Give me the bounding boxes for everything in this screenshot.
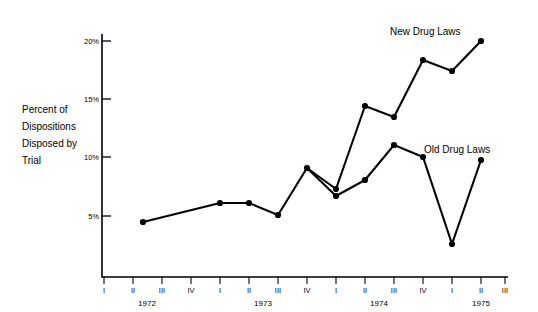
data-point — [217, 200, 223, 206]
year-label-1975: 1975 — [472, 299, 490, 308]
x-axis-tick-labels: I II III IV I II III IV I II III IV I II… — [103, 286, 508, 295]
y-axis-title-line-2: Dispositions — [22, 121, 76, 132]
x-tick-label-10: III — [391, 286, 397, 295]
line-chart: 20% 15% 10% 5% Percent of Dispositions D… — [0, 0, 538, 312]
series-line-old-drug-laws — [143, 145, 481, 244]
x-tick-label-1: II — [131, 286, 135, 295]
data-point — [478, 157, 484, 163]
data-point — [362, 103, 368, 109]
x-tick-label-11: IV — [419, 286, 426, 295]
data-point — [304, 165, 310, 171]
x-tick-label-8: I — [335, 286, 337, 295]
x-tick-label-0: I — [103, 286, 105, 295]
series-connector-branch — [307, 168, 336, 189]
y-axis-title: Percent of Dispositions Disposed by Tria… — [22, 104, 77, 166]
data-point — [275, 212, 281, 218]
y-axis-title-line-3: Disposed by — [22, 138, 77, 149]
data-point — [478, 38, 484, 44]
x-tick-label-3: IV — [187, 286, 194, 295]
data-point — [391, 142, 397, 148]
data-point — [140, 219, 146, 225]
chart-axes — [102, 34, 508, 277]
x-axis-ticks — [104, 277, 505, 284]
x-tick-label-14: III — [502, 286, 508, 295]
y-tick-label-10: 10% — [84, 153, 99, 162]
year-label-1972: 1972 — [138, 299, 156, 308]
y-axis-title-line-1: Percent of — [22, 104, 68, 115]
series-label-old-drug-laws: Old Drug Laws — [424, 144, 490, 155]
x-tick-label-12: I — [451, 286, 453, 295]
year-label-1974: 1974 — [370, 299, 388, 308]
series-line-new-drug-laws — [336, 41, 481, 189]
data-point — [362, 177, 368, 183]
data-points-old-drug-laws — [140, 142, 484, 247]
chart-container: 20% 15% 10% 5% Percent of Dispositions D… — [0, 0, 538, 312]
x-tick-label-9: II — [363, 286, 367, 295]
data-point — [449, 68, 455, 74]
data-point — [333, 193, 339, 199]
y-axis-title-line-4: Trial — [22, 155, 41, 166]
y-tick-label-20: 20% — [84, 37, 99, 46]
x-axis-year-labels: 1972 1973 1974 1975 — [138, 299, 490, 308]
data-point — [420, 57, 426, 63]
x-tick-label-7: IV — [303, 286, 310, 295]
data-point — [391, 114, 397, 120]
year-label-1973: 1973 — [254, 299, 272, 308]
x-tick-label-5: II — [247, 286, 251, 295]
series-label-new-drug-laws: New Drug Laws — [390, 26, 461, 37]
x-tick-label-4: I — [219, 286, 221, 295]
data-point — [333, 186, 339, 192]
y-tick-label-5: 5% — [88, 212, 99, 221]
data-point — [449, 241, 455, 247]
data-point — [246, 200, 252, 206]
y-tick-label-15: 15% — [84, 95, 99, 104]
x-tick-label-13: II — [479, 286, 483, 295]
x-tick-label-2: III — [159, 286, 165, 295]
x-tick-label-6: III — [275, 286, 281, 295]
